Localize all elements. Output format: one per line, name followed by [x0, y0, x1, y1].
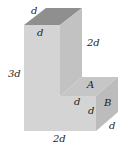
label-top-back: d — [31, 5, 37, 16]
label-depth: d — [109, 120, 115, 131]
label-step-width: d — [74, 96, 80, 107]
label-right-height: 2d — [86, 37, 100, 48]
label-bottom-width: 2d — [52, 133, 66, 144]
block-diagram: d d 2d 3d A B d d d 2d — [0, 0, 126, 148]
label-step-height: d — [88, 105, 94, 116]
label-face-a: A — [86, 79, 94, 90]
label-left-height: 3d — [8, 68, 21, 79]
label-face-b: B — [103, 97, 111, 108]
label-top-front: d — [37, 27, 43, 38]
